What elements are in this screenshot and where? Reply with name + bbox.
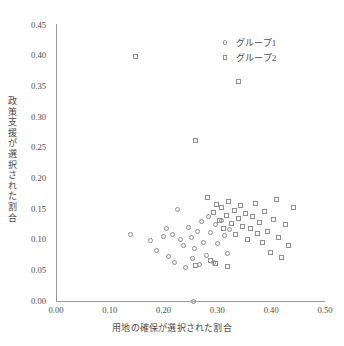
y-tick-label: 0.35: [0, 82, 46, 91]
data-point-series-2: [255, 231, 260, 236]
y-axis-title-char: 策: [6, 107, 19, 118]
y-axis-title-char: れ: [6, 181, 19, 192]
y-axis-title-char: 合: [6, 213, 19, 224]
data-point-series-1: [172, 260, 177, 265]
y-tick-label: 0.10: [0, 235, 46, 244]
data-point-series-1: [190, 256, 195, 261]
data-point-series-1: [222, 233, 227, 238]
legend: グループ1グループ2: [219, 36, 323, 66]
data-point-series-1: [154, 248, 159, 253]
data-point-series-2: [276, 235, 281, 240]
data-point-series-2: [232, 208, 237, 213]
data-point-series-2: [214, 202, 219, 207]
data-point-series-1: [186, 225, 191, 230]
data-point-series-2: [283, 222, 288, 227]
data-point-series-1: [183, 265, 188, 270]
y-tick-label: 0.00: [0, 297, 46, 306]
data-point-series-1: [164, 226, 169, 231]
y-axis-title-char: 支: [6, 117, 19, 128]
data-point-series-1: [201, 240, 206, 245]
x-tick-label: 0.50: [305, 306, 344, 315]
data-point-series-2: [265, 229, 270, 234]
y-tick-label: 0.40: [0, 51, 46, 60]
y-axis-title-char: た: [6, 191, 19, 202]
data-point-series-2: [213, 261, 218, 266]
data-point-series-1: [195, 229, 200, 234]
data-point-series-1: [189, 235, 194, 240]
data-point-series-2: [286, 243, 291, 248]
x-tick-label: 0.30: [197, 306, 237, 315]
data-point-series-1: [215, 241, 220, 246]
data-point-series-2: [250, 214, 255, 219]
square-marker-icon: [219, 55, 231, 60]
data-point-series-2: [240, 224, 245, 229]
data-point-series-2: [271, 217, 276, 222]
data-point-series-2: [211, 210, 216, 215]
data-point-series-2: [226, 199, 231, 204]
data-point-series-1: [181, 243, 186, 248]
data-point-series-1: [161, 234, 166, 239]
data-point-series-1: [206, 214, 211, 219]
data-point-series-2: [236, 216, 241, 221]
data-point-series-2: [193, 138, 198, 143]
y-axis-title: 政策支援が選択された割合: [6, 96, 19, 223]
x-axis-title: 用地の確保が選択された割合: [0, 321, 344, 334]
data-point-series-1: [191, 299, 196, 304]
data-point-series-2: [238, 203, 243, 208]
legend-item-2: グループ2: [219, 51, 323, 64]
data-point-series-2: [268, 250, 273, 255]
y-axis-title-char: さ: [6, 170, 19, 181]
data-point-series-2: [248, 226, 253, 231]
plot-area: [56, 25, 325, 301]
data-point-series-1: [227, 227, 232, 232]
data-point-series-2: [219, 205, 224, 210]
data-point-series-2: [257, 220, 262, 225]
legend-item-label: グループ2: [236, 51, 277, 64]
legend-item-label: グループ1: [236, 36, 277, 49]
data-point-series-2: [245, 237, 250, 242]
data-point-series-2: [279, 255, 284, 260]
circle-marker-icon: [219, 40, 231, 45]
y-axis-title-char: 択: [6, 160, 19, 171]
y-tick-label: 0.05: [0, 266, 46, 275]
data-point-series-1: [199, 219, 204, 224]
data-point-series-1: [175, 207, 180, 212]
data-point-series-2: [262, 209, 267, 214]
data-point-series-1: [213, 222, 218, 227]
data-point-series-2: [217, 218, 222, 223]
data-point-series-2: [193, 263, 198, 268]
data-point-series-2: [260, 240, 265, 245]
data-point-series-1: [170, 232, 175, 237]
data-point-series-2: [274, 197, 279, 202]
x-tick-label: 0.20: [144, 306, 184, 315]
y-tick-label: 0.45: [0, 21, 46, 30]
data-point-series-1: [225, 251, 230, 256]
legend-item-1: グループ1: [219, 36, 323, 49]
data-point-series-1: [128, 232, 133, 237]
x-tick-label: 0.00: [36, 306, 76, 315]
y-axis-title-char: 選: [6, 149, 19, 160]
cropped-header-strip: [0, 0, 344, 9]
data-point-series-2: [229, 221, 234, 226]
data-point-series-1: [178, 237, 183, 242]
data-point-series-1: [208, 230, 213, 235]
scatter-chart: 0.000.050.100.150.200.250.300.350.400.45…: [0, 0, 344, 346]
data-point-series-2: [243, 211, 248, 216]
data-point-series-2: [253, 201, 258, 206]
data-point-series-1: [166, 254, 171, 259]
data-point-series-2: [205, 195, 210, 200]
data-point-series-2: [221, 226, 226, 231]
y-axis-title-char: 政: [6, 96, 19, 107]
data-point-series-1: [192, 246, 197, 251]
x-tick-label: 0.10: [90, 306, 130, 315]
x-tick-label: 0.40: [251, 306, 291, 315]
y-axis-title-char: 援: [6, 128, 19, 139]
data-point-series-2: [236, 79, 241, 84]
data-point-series-2: [224, 213, 229, 218]
circle-marker-icon-glyph: [223, 40, 228, 45]
data-point-series-2: [233, 232, 238, 237]
data-point-series-2: [225, 264, 230, 269]
data-point-series-2: [133, 54, 138, 59]
y-axis-title-char: が: [6, 138, 19, 149]
data-point-series-1: [148, 238, 153, 243]
